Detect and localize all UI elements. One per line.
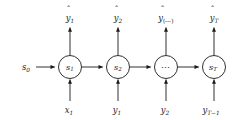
yhatdots-label: y(⋯) — [157, 13, 173, 24]
yhatT-label: yT — [209, 13, 220, 24]
output-labels: ˆ y1 ˆ y2 ˆ y(⋯) ˆ yT — [65, 5, 220, 24]
x1-subscript: 1 — [70, 110, 74, 116]
x1-label: x1 — [65, 105, 73, 116]
rnn-unrolled-diagram: s0 s1 s2 ⋯ — [0, 0, 250, 120]
initial-state-subscript: 0 — [26, 67, 30, 73]
input-edges — [70, 80, 214, 102]
y1-subscript: 1 — [118, 110, 122, 116]
initial-state-group: s0 — [22, 62, 55, 73]
node-s1-subscript: 1 — [70, 66, 74, 72]
yhatdots-subscript: (⋯) — [163, 18, 174, 24]
y2-subscript: 2 — [165, 110, 170, 116]
yhat1-subscript: 1 — [71, 18, 75, 24]
yTm1-subscript: T−1 — [207, 110, 219, 116]
output-edges — [70, 28, 214, 56]
yhat1-label: y1 — [65, 13, 74, 24]
input-labels: x1 y1 y2 yT−1 — [65, 105, 220, 116]
node-ellipsis-label: ⋯ — [161, 63, 171, 73]
yhatT-subscript: T — [214, 18, 219, 24]
node-s2-subscript: 2 — [117, 66, 122, 72]
figure-canvas: s0 s1 s2 ⋯ — [0, 0, 250, 120]
yhat2-label: y2 — [113, 13, 123, 24]
y2-label: y2 — [160, 105, 170, 116]
yTm1-label: yT−1 — [201, 105, 219, 116]
y1-label: y1 — [112, 105, 121, 116]
initial-state-label: s0 — [22, 62, 30, 73]
yhat2-subscript: 2 — [118, 18, 123, 24]
